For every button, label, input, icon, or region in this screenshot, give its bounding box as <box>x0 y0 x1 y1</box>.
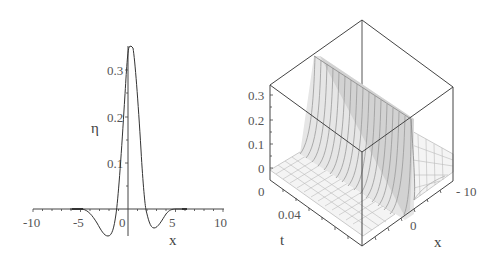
x-tick-label: 0 <box>119 215 126 230</box>
x-tick-label: - 10 <box>456 184 477 199</box>
t-tick-label: 0 <box>258 184 265 199</box>
right-plot: 0.3 0.2 0.1 0 0 0.04 t - 10 0 x <box>248 20 477 250</box>
x-axis-label: x <box>169 232 177 248</box>
x-tick-label: -10 <box>23 215 40 230</box>
x-axis-label-3d: x <box>434 234 442 250</box>
x-tick-label: 10 <box>214 215 227 230</box>
eta-curve <box>70 46 182 236</box>
y-tick-label: 0.3 <box>107 63 123 78</box>
z-tick-label: 0.3 <box>248 88 264 103</box>
figure: -10 -5 0 5 10 0.3 0.2 0.1 η x <box>0 0 499 266</box>
z-tick-label: 0.2 <box>248 113 264 128</box>
t-tick-label: 0.04 <box>278 207 301 222</box>
y-tick-label: 0.2 <box>107 110 123 125</box>
t-axis-label: t <box>280 232 285 248</box>
z-tick-label: 0 <box>258 161 265 176</box>
y-axis-label: η <box>91 120 99 136</box>
left-plot: -10 -5 0 5 10 0.3 0.2 0.1 η x <box>23 46 227 248</box>
surface-mesh-right <box>410 130 453 200</box>
x-tick-label: -5 <box>73 215 84 230</box>
x-tick-label: 5 <box>169 215 176 230</box>
z-tick-label: 0.1 <box>248 137 264 152</box>
x-tick-label: 0 <box>410 218 417 233</box>
